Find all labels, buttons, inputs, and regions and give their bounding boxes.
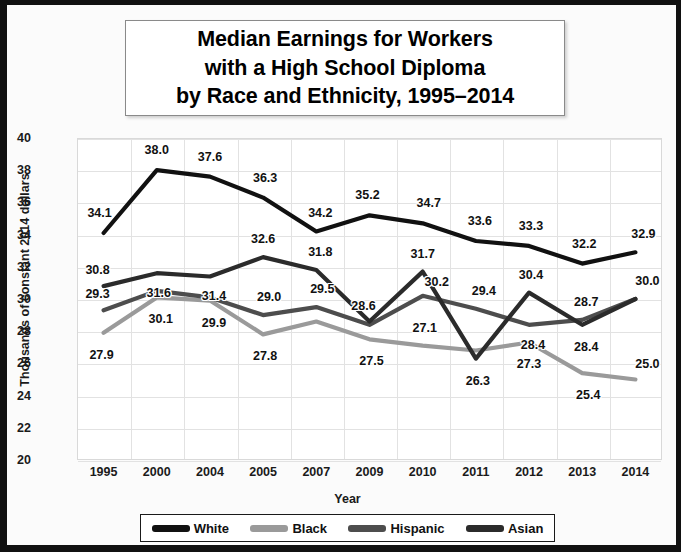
legend-label: Asian: [508, 521, 543, 536]
chart-title: Median Earnings for Workers with a High …: [125, 20, 565, 116]
data-label-asian-2005: 32.6: [251, 232, 275, 246]
data-label-asian-2009: 28.6: [351, 299, 375, 313]
data-label-hispanic-1995: 29.3: [85, 287, 109, 301]
title-line-1: Median Earnings for Workers: [197, 25, 493, 53]
legend-item-hispanic[interactable]: Hispanic: [348, 521, 444, 536]
data-label-black-2005: 27.8: [253, 349, 277, 363]
data-label-asian-1995: 30.8: [85, 263, 109, 277]
data-label-black-2013: 25.4: [576, 388, 600, 402]
legend-swatch-icon: [348, 525, 386, 532]
data-label-white-2009: 35.2: [355, 188, 379, 202]
data-label-hispanic-2007: 29.5: [310, 282, 334, 296]
chart-frame: Median Earnings for Workers with a High …: [0, 0, 681, 552]
data-label-hispanic-2005: 29.0: [257, 290, 281, 304]
title-line-3: by Race and Ethnicity, 1995–2014: [176, 82, 514, 110]
data-label-hispanic-2010: 30.2: [425, 275, 449, 289]
legend-swatch-icon: [466, 525, 504, 532]
data-label-asian-2010: 31.7: [411, 247, 435, 261]
data-label-black-2004: 29.9: [202, 316, 226, 330]
data-label-asian-2011: 26.3: [466, 374, 490, 388]
chart-legend: WhiteBlackHispanicAsian: [140, 514, 555, 542]
data-label-black-2014: 25.0: [635, 357, 659, 371]
data-label-black-2000: 30.1: [149, 312, 173, 326]
legend-item-asian[interactable]: Asian: [466, 521, 543, 536]
data-label-asian-2013: 28.4: [574, 340, 598, 354]
data-label-white-2011: 33.6: [468, 214, 492, 228]
legend-swatch-icon: [152, 525, 190, 532]
legend-swatch-icon: [250, 525, 288, 532]
data-label-black-2012: 27.3: [517, 357, 541, 371]
data-label-black-2010: 27.1: [413, 321, 437, 335]
data-label-hispanic-2014: 30.0: [635, 274, 659, 288]
legend-label: Hispanic: [390, 521, 444, 536]
data-label-black-1995: 27.9: [89, 348, 113, 362]
data-label-white-2012: 33.3: [519, 219, 543, 233]
data-label-white-2013: 32.2: [572, 237, 596, 251]
data-label-asian-2007: 31.8: [308, 245, 332, 259]
data-label-black-2009: 27.5: [359, 354, 383, 368]
legend-label: White: [194, 521, 229, 536]
data-label-asian-2012: 30.4: [519, 268, 543, 282]
legend-item-white[interactable]: White: [152, 521, 229, 536]
data-label-white-2007: 34.2: [308, 206, 332, 220]
data-label-white-2005: 36.3: [253, 171, 277, 185]
data-label-white-2004: 37.6: [198, 150, 222, 164]
data-label-hispanic-2011: 29.4: [472, 284, 496, 298]
data-label-white-1995: 34.1: [87, 206, 111, 220]
title-line-2: with a High School Diploma: [205, 54, 486, 82]
data-label-asian-2000: 31.6: [147, 286, 171, 300]
data-label-hispanic-2013: 28.7: [574, 295, 598, 309]
data-label-white-2000: 38.0: [145, 143, 169, 157]
legend-label: Black: [292, 521, 327, 536]
legend-item-black[interactable]: Black: [250, 521, 327, 536]
data-label-white-2010: 34.7: [417, 196, 441, 210]
data-label-asian-2004: 31.4: [202, 289, 226, 303]
data-label-hispanic-2012: 28.4: [521, 338, 545, 352]
data-label-white-2014: 32.9: [631, 227, 655, 241]
